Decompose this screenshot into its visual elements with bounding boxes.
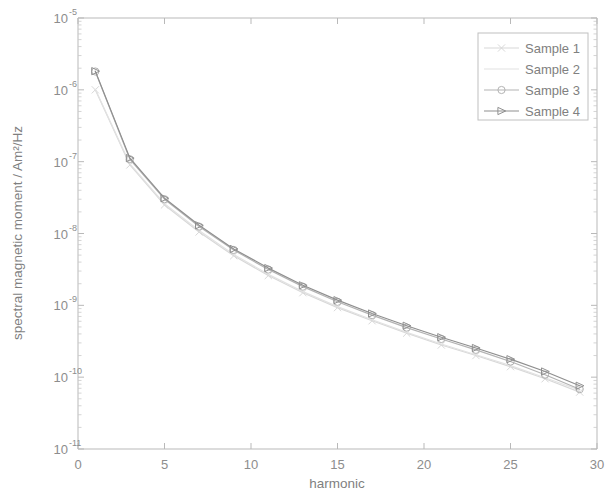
svg-text:10: 10 [54,298,68,313]
legend[interactable]: Sample 1Sample 2Sample 3Sample 4 [478,33,588,120]
svg-text:-9: -9 [69,294,77,304]
x-tick-label: 30 [590,457,604,472]
y-tick-label: 10-7 [54,151,77,170]
x-tick-label: 20 [417,457,431,472]
y-axis-title: spectral magnetic moment / Am²/Hz [10,126,25,340]
legend-item-label: Sample 4 [525,104,580,119]
data-series [92,86,584,395]
legend-item-label: Sample 2 [525,62,580,77]
series-line [95,89,579,390]
series-line [95,90,579,392]
svg-text:-8: -8 [69,223,77,233]
svg-text:10: 10 [54,11,68,26]
svg-text:10: 10 [54,227,68,242]
x-tick-label: 10 [244,457,258,472]
y-tick-label: 10-6 [54,79,77,98]
x-tick-label: 0 [74,457,81,472]
data-series [95,89,579,390]
legend-item-label: Sample 3 [525,83,580,98]
legend-item-label: Sample 1 [525,41,580,56]
svg-text:-11: -11 [69,438,81,448]
svg-text:10: 10 [54,370,68,385]
svg-text:10: 10 [54,83,68,98]
line-chart: 10-510-610-710-810-910-1010-11 051015202… [0,0,613,493]
x-axis-tick-labels: 051015202530 [74,457,604,472]
svg-text:10: 10 [54,442,68,457]
x-tick-label: 15 [330,457,344,472]
svg-text:-7: -7 [69,151,77,161]
x-tick-label: 25 [503,457,517,472]
figure-canvas: 10-510-610-710-810-910-1010-11 051015202… [0,0,613,493]
y-tick-label: 10-9 [54,294,77,313]
svg-text:10: 10 [54,155,68,170]
svg-text:-6: -6 [69,79,77,89]
y-tick-label: 10-8 [54,223,77,242]
svg-text:-10: -10 [69,366,82,376]
x-tick-label: 5 [161,457,168,472]
y-tick-label: 10-5 [54,7,77,26]
svg-text:-5: -5 [69,7,77,17]
x-axis-title: harmonic [309,476,365,491]
y-tick-label: 10-11 [54,438,82,457]
